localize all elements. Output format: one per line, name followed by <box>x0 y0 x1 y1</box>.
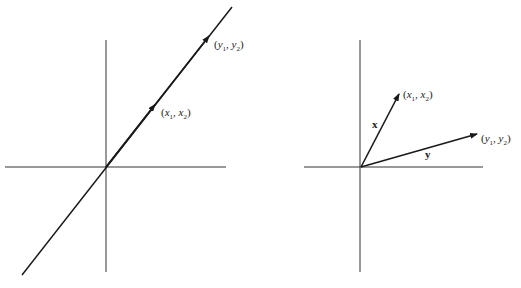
left-panel: (x1, x2) (y1, y2) <box>5 7 244 275</box>
right-x-vector-arrow-icon <box>361 94 399 167</box>
right-label-y-point: (y1, y2) <box>481 132 511 147</box>
left-label-y-point: (y1, y2) <box>214 38 244 53</box>
right-y-vector-arrow-icon <box>361 134 477 167</box>
right-label-x-point: (x1, x2) <box>403 88 433 103</box>
right-panel: x y (x1, x2) (y1, y2) <box>304 40 511 272</box>
diagram-canvas: (x1, x2) (y1, y2) x y (x1, x2) (y1, y2) <box>0 0 521 288</box>
right-vector-label-x: x <box>372 118 378 130</box>
left-y-arrow-icon <box>106 36 209 167</box>
right-vector-label-y: y <box>425 148 431 160</box>
left-label-x-point: (x1, x2) <box>161 106 191 121</box>
